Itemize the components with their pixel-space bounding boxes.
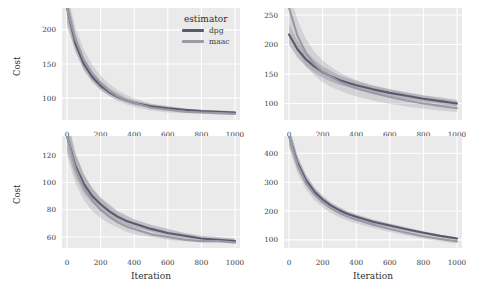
y-tick-label: 80 (20, 205, 56, 214)
x-tick-label: 200 (85, 258, 117, 267)
y-tick-label: 150 (20, 60, 56, 69)
x-tick-label: 1000 (441, 258, 473, 267)
legend: estimatordpgmaac (182, 14, 230, 46)
x-tick-label: 200 (307, 258, 339, 267)
legend-entry-dpg[interactable]: dpg (182, 26, 230, 35)
y-tick-label: 400 (242, 149, 278, 158)
x-tick-label: 800 (185, 258, 217, 267)
legend-swatch-icon (182, 29, 204, 32)
plot-area-bottom-left (62, 136, 240, 248)
x-tick-label: 0 (51, 258, 83, 267)
x-axis-label: Iteration (62, 271, 240, 281)
y-tick-label: 60 (20, 233, 56, 242)
y-tick-label: 200 (242, 40, 278, 49)
y-axis-label: Cost (12, 185, 22, 204)
figure-canvas: 10015020002004006008001000IterationCost1… (0, 0, 485, 291)
y-tick-label: 150 (242, 70, 278, 79)
y-tick-label: 100 (242, 99, 278, 108)
plot-area-top-right (284, 8, 462, 120)
legend-label: dpg (209, 26, 224, 35)
x-axis-label: Iteration (284, 271, 462, 281)
y-tick-label: 100 (20, 94, 56, 103)
x-tick-label: 600 (374, 258, 406, 267)
y-tick-label: 100 (20, 178, 56, 187)
y-axis-label: Cost (12, 57, 22, 76)
y-tick-label: 250 (242, 11, 278, 20)
x-tick-label: 0 (273, 258, 305, 267)
plot-area-bottom-right (284, 136, 462, 248)
legend-label: maac (209, 37, 230, 46)
x-tick-label: 400 (340, 258, 372, 267)
legend-entry-maac[interactable]: maac (182, 37, 230, 46)
y-tick-label: 300 (242, 178, 278, 187)
x-tick-label: 800 (407, 258, 439, 267)
y-tick-label: 120 (20, 151, 56, 160)
y-tick-label: 200 (242, 207, 278, 216)
legend-title: estimator (182, 14, 230, 24)
x-tick-label: 400 (118, 258, 150, 267)
y-tick-label: 100 (242, 235, 278, 244)
x-tick-label: 600 (152, 258, 184, 267)
legend-swatch-icon (182, 40, 204, 43)
x-tick-label: 1000 (219, 258, 251, 267)
y-tick-label: 200 (20, 25, 56, 34)
